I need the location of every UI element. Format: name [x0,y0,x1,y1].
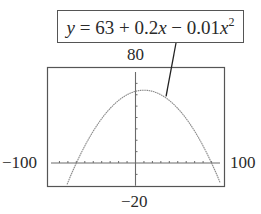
xmin-label: −100 [2,154,37,171]
plot-area [0,0,261,214]
axes [51,72,220,186]
xmax-label: 100 [230,154,256,171]
annotation-leader-line [166,43,176,96]
ymin-label: −20 [121,193,148,210]
parabola-curve [67,90,220,184]
ymax-label: 80 [127,46,144,63]
graph-figure: y = 63 + 0.2x − 0.01x2 80 −100 100 −20 [0,0,261,214]
